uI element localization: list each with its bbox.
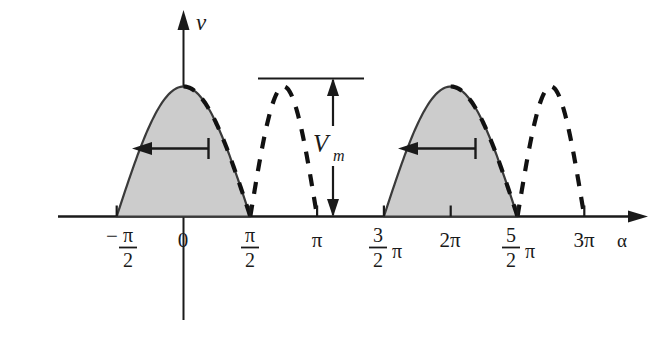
waveform-figure: V m v α −π20π2π32π2π52π3π bbox=[0, 0, 664, 338]
x-tick-label-pi: π bbox=[312, 228, 323, 252]
x-axis-label: α bbox=[617, 230, 627, 251]
waveform-svg: V m v α −π20π2π32π2π52π3π bbox=[0, 0, 664, 338]
amplitude-label-subscript: m bbox=[333, 147, 345, 164]
tick-label-text: π bbox=[123, 224, 133, 246]
y-axis-label: v bbox=[196, 10, 207, 35]
x-axis-tick-labels: −π20π2π32π2π52π3π bbox=[106, 224, 595, 271]
tick-label-text: 3π bbox=[573, 228, 595, 252]
tick-label-text: 2 bbox=[245, 249, 255, 271]
tick-label-text: − bbox=[106, 224, 118, 248]
tick-label-text: 2 bbox=[506, 249, 516, 271]
shaded-hump-first bbox=[117, 87, 251, 217]
x-tick-label-five-half-pi: 52π bbox=[502, 224, 535, 271]
tick-label-text: 2π bbox=[439, 228, 461, 252]
tick-label-text: π bbox=[312, 228, 323, 252]
tick-label-text: 2 bbox=[373, 249, 383, 271]
tick-label-text: 0 bbox=[178, 228, 189, 252]
dashed-curve-first-fall bbox=[250, 87, 317, 217]
x-tick-label-two-pi: 2π bbox=[439, 228, 461, 252]
tick-label-text: π bbox=[392, 240, 402, 262]
dashed-curve-second-fall bbox=[518, 87, 585, 217]
amplitude-arrowhead-up bbox=[327, 78, 339, 96]
y-axis-arrowhead bbox=[178, 10, 190, 30]
x-tick-label-neg-half-pi: −π2 bbox=[106, 224, 137, 271]
x-axis-arrowhead bbox=[628, 211, 648, 223]
tick-label-text: 2 bbox=[123, 249, 133, 271]
x-tick-label-three-half-pi: 32π bbox=[369, 224, 402, 271]
amplitude-arrowhead-down bbox=[327, 199, 339, 217]
tick-label-text: π bbox=[245, 224, 255, 246]
tick-label-text: π bbox=[525, 240, 535, 262]
tick-label-text: 3 bbox=[373, 224, 383, 246]
shaded-hump-second bbox=[384, 87, 518, 217]
x-tick-label-three-pi: 3π bbox=[573, 228, 595, 252]
x-tick-label-zero: 0 bbox=[178, 228, 189, 252]
x-tick-label-half-pi: π2 bbox=[241, 224, 259, 271]
tick-label-text: 5 bbox=[506, 224, 516, 246]
